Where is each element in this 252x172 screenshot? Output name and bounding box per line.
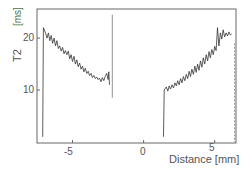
left-segment-line bbox=[43, 28, 110, 137]
plot-frame bbox=[37, 9, 236, 143]
y-tick-label-10: 10 bbox=[23, 85, 34, 95]
y-axis-unit: [ms] bbox=[13, 7, 23, 26]
data-series bbox=[43, 15, 235, 142]
x-axis-label: Distance [mm] bbox=[169, 154, 239, 165]
x-tick-label-0: 0 bbox=[140, 147, 146, 157]
x-tick-label-5: 5 bbox=[209, 143, 215, 153]
x-tick-label-neg5: -5 bbox=[64, 147, 73, 157]
y-tick-label-20: 20 bbox=[23, 33, 34, 43]
right-segment-line bbox=[164, 28, 232, 137]
y-axis-label: T2 bbox=[12, 49, 23, 62]
